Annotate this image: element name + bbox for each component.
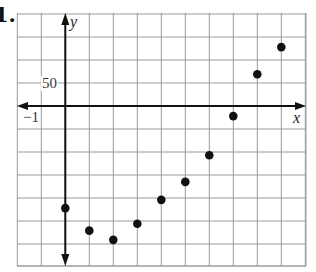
y-axis-label: y <box>70 14 77 30</box>
x-tick-label-neg1: −1 <box>22 110 40 125</box>
scatter-plot <box>0 0 316 272</box>
y-tick-label-50: 50 <box>41 76 58 91</box>
data-point <box>133 219 142 228</box>
grid-lines <box>17 13 306 266</box>
data-point <box>181 178 190 187</box>
data-point <box>109 236 118 245</box>
y-axis-up-arrow-icon <box>61 13 69 25</box>
data-point <box>253 70 262 79</box>
x-axis-label: x <box>293 110 300 126</box>
data-point <box>277 43 286 52</box>
data-point <box>229 112 238 121</box>
data-points <box>61 43 286 244</box>
data-point <box>85 226 94 235</box>
y-axis-down-arrow-icon <box>61 254 69 266</box>
data-point <box>61 204 70 213</box>
data-point <box>157 196 166 205</box>
data-point <box>205 151 214 160</box>
